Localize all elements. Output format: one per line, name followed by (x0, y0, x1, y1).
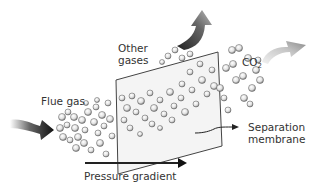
other-gases-label: Other gases (118, 42, 149, 66)
flue-gas-label: Flue gas (41, 95, 85, 107)
flue-gas-arrow-icon (10, 120, 54, 140)
diagram-canvas (0, 0, 324, 187)
co2-label-subscript: 2 (258, 62, 262, 70)
other-gases-arrow-icon (177, 10, 212, 50)
co2-arrow-icon (262, 41, 306, 64)
co2-label: CO2 (242, 56, 262, 72)
separation-membrane-label-line1: Separation (248, 121, 305, 133)
other-gases-label-line2: gases (118, 54, 149, 66)
co2-label-main: CO (242, 56, 258, 68)
separation-membrane-label-line2: membrane (248, 133, 305, 145)
separation-membrane-label: Separation membrane (248, 121, 305, 145)
other-gases-label-line1: Other (118, 42, 149, 54)
separation-membrane (116, 52, 222, 174)
pressure-gradient-label: Pressure gradient (84, 170, 176, 182)
